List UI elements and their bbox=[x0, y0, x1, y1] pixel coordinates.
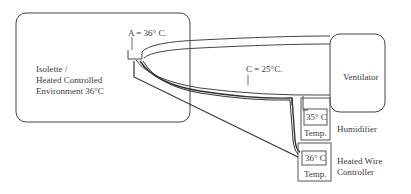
isolette-label-2: Heated Controlled bbox=[36, 75, 102, 86]
point-a-label: A = 36° C. bbox=[128, 28, 167, 39]
sensor-wire bbox=[134, 61, 298, 157]
isolette-label-1: Isolette / bbox=[36, 64, 67, 75]
heated-wire-temp-label: Temp. bbox=[304, 169, 327, 180]
heated-wire-temp-value: 36° C bbox=[305, 153, 326, 164]
tube-lower-outer bbox=[136, 60, 330, 95]
humidifier-temp-value: 35° C bbox=[306, 112, 327, 123]
humidifier-temp-label: Temp. bbox=[304, 128, 327, 139]
tube-upper-inner bbox=[144, 44, 330, 58]
humidifier-label: Humidifier bbox=[337, 124, 377, 135]
point-c-label: C = 25°C. bbox=[246, 64, 282, 75]
heated-wire-label-2: Controller bbox=[337, 167, 374, 178]
y-connector bbox=[128, 50, 142, 59]
heated-wire-label-1: Heated Wire bbox=[337, 156, 382, 167]
ventilator-label: Ventilator bbox=[343, 72, 379, 83]
isolette-label-3: Environment 36°C bbox=[36, 86, 104, 97]
